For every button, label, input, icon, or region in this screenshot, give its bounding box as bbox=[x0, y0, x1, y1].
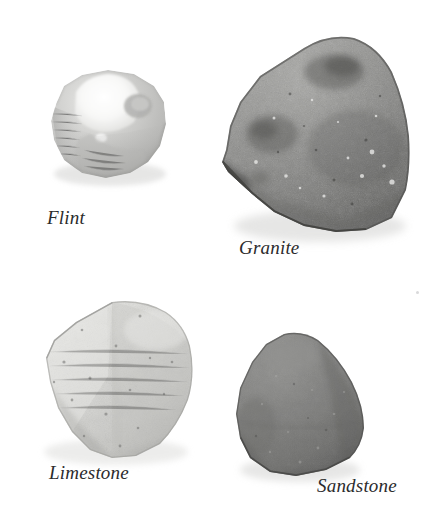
limestone-rock-image bbox=[20, 296, 210, 471]
sandstone-rock-image bbox=[222, 330, 377, 490]
caption-limestone: Limestone bbox=[49, 463, 129, 482]
rock-specimen-figure: Flint bbox=[0, 0, 444, 515]
caption-flint: Flint bbox=[47, 208, 85, 227]
scan-speck bbox=[416, 291, 419, 294]
caption-sandstone: Sandstone bbox=[317, 476, 397, 495]
granite-rock-image bbox=[216, 30, 421, 245]
caption-granite: Granite bbox=[239, 238, 300, 257]
cropped-heading-text bbox=[0, 0, 444, 3]
flint-rock-image bbox=[38, 66, 183, 191]
